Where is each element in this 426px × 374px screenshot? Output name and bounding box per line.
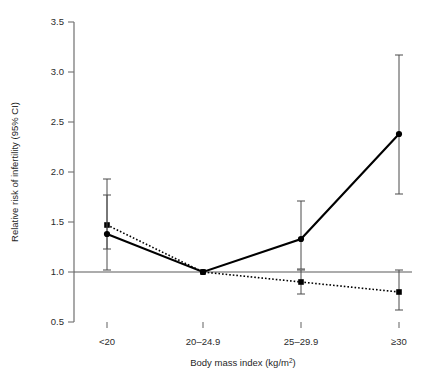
series-solid-circle <box>103 55 403 275</box>
figure-container: 0.51.01.52.02.53.03.5 <2020–24.925–29.9≥… <box>0 0 426 374</box>
x-axis-title: Body mass index (kg/m2) <box>190 357 296 369</box>
x-axis-title-base: Body mass index (kg/m <box>190 357 289 368</box>
data-point-marker-square <box>396 289 402 295</box>
y-tick-label: 3.5 <box>51 16 64 27</box>
x-category-label: 20–24.9 <box>186 336 220 347</box>
x-axis-category-labels: <2020–24.925–29.9≥30 <box>99 336 407 347</box>
relative-risk-line-chart: 0.51.01.52.02.53.03.5 <2020–24.925–29.9≥… <box>0 0 426 374</box>
y-tick-label: 2.0 <box>51 166 64 177</box>
data-point-marker-circle <box>200 269 206 275</box>
y-axis-ticks <box>68 22 74 322</box>
y-tick-label: 2.5 <box>51 116 64 127</box>
x-category-label: 25–29.9 <box>284 336 318 347</box>
data-point-marker-circle <box>104 231 110 237</box>
x-category-label: ≥30 <box>391 336 407 347</box>
solid-trend-line <box>107 134 399 272</box>
dotted-trend-line <box>107 225 399 292</box>
x-axis-title-tail: ) <box>293 357 296 368</box>
y-tick-label: 0.5 <box>51 316 64 327</box>
y-tick-label: 1.5 <box>51 216 64 227</box>
y-axis-title: Relative risk of infertility (95% CI) <box>9 102 20 242</box>
x-category-label: <20 <box>99 336 115 347</box>
y-tick-label: 1.0 <box>51 266 64 277</box>
y-tick-label: 3.0 <box>51 66 64 77</box>
series-dotted-square <box>103 195 403 310</box>
data-point-marker-circle <box>396 131 402 137</box>
x-axis-ticks <box>107 322 399 328</box>
data-point-marker-square <box>298 279 304 285</box>
data-point-marker-circle <box>298 236 304 242</box>
y-axis-tick-labels: 0.51.01.52.02.53.03.5 <box>51 16 64 327</box>
